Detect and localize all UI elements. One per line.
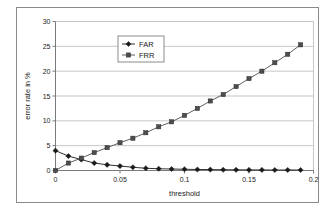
x-tick-label: 0.05 — [113, 176, 127, 183]
series-marker-frr — [208, 99, 212, 103]
series-marker-frr — [234, 84, 238, 88]
series-marker-frr — [144, 131, 148, 135]
legend-marker-frr — [126, 53, 130, 57]
series-marker-frr — [53, 168, 57, 172]
x-tick-label: 0 — [54, 176, 58, 183]
series-marker-frr — [182, 113, 186, 117]
error-rate-line-chart: 05101520253000.050.10.150.2thresholderro… — [0, 0, 330, 214]
series-marker-frr — [170, 120, 174, 124]
series-marker-frr — [131, 136, 135, 140]
series-marker-frr — [118, 141, 122, 145]
x-tick-label: 0.1 — [180, 176, 190, 183]
y-axis-title: error rate in % — [23, 72, 32, 120]
series-marker-frr — [221, 92, 225, 96]
series-marker-frr — [79, 156, 83, 160]
x-axis-title: threshold — [169, 189, 200, 198]
y-tick-label: 15 — [43, 93, 51, 100]
series-marker-frr — [157, 125, 161, 129]
series-marker-frr — [105, 146, 109, 150]
series-marker-frr — [195, 106, 199, 110]
x-tick-label: 0.2 — [309, 176, 319, 183]
y-tick-label: 0 — [47, 167, 51, 174]
y-tick-label: 30 — [43, 18, 51, 25]
series-marker-frr — [247, 77, 251, 81]
legend-label-far: FAR — [139, 40, 154, 49]
series-marker-frr — [92, 151, 96, 155]
y-tick-label: 10 — [43, 117, 51, 124]
y-axis-title-group: error rate in % — [23, 72, 32, 120]
series-marker-frr — [273, 61, 277, 65]
series-marker-frr — [299, 43, 303, 47]
y-tick-label: 25 — [43, 43, 51, 50]
x-tick-label: 0.15 — [242, 176, 256, 183]
y-tick-label: 20 — [43, 68, 51, 75]
series-marker-frr — [260, 69, 264, 73]
series-marker-frr — [66, 161, 70, 165]
y-tick-label: 5 — [47, 142, 51, 149]
series-marker-frr — [286, 52, 290, 56]
chart-figure: 05101520253000.050.10.150.2thresholderro… — [0, 0, 330, 214]
legend-label-frr: FRR — [139, 51, 155, 60]
